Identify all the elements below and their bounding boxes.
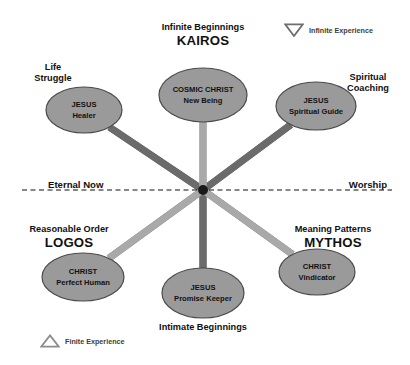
node-jesus-healer-line2: Healer bbox=[72, 111, 95, 120]
pole-bottom: Intimate Beginnings bbox=[133, 322, 273, 333]
label-life-struggle: Life Struggle bbox=[14, 62, 92, 84]
label-spiritual-coaching-line1: Spiritual bbox=[330, 72, 406, 83]
node-christ-human[interactable]: CHRISTPerfect Human bbox=[42, 253, 124, 301]
node-jesus-guide-line1: JESUS bbox=[304, 96, 329, 105]
legend-infinite-experience-label: Infinite Experience bbox=[309, 26, 373, 35]
legend-finite-experience: Finite Experience bbox=[40, 334, 125, 348]
node-jesus-promise-line2: Promise Keeper bbox=[174, 294, 232, 303]
node-jesus-promise-line1: JESUS bbox=[191, 283, 216, 292]
pole-right: Meaning Patterns MYTHOS bbox=[270, 224, 396, 251]
label-life-struggle-line2: Struggle bbox=[14, 73, 92, 84]
label-spiritual-coaching-line2: Coaching bbox=[330, 83, 406, 94]
pole-top: Infinite Beginnings KAIROS bbox=[133, 22, 273, 49]
pole-top-main: KAIROS bbox=[133, 33, 273, 49]
legend-infinite-experience: Infinite Experience bbox=[284, 23, 373, 37]
axis-label-worship: Worship bbox=[272, 179, 387, 190]
node-jesus-guide-line2: Spiritual Guide bbox=[289, 107, 343, 116]
axis-label-eternal-now: Eternal Now bbox=[48, 179, 103, 190]
node-christ-vind-line1: CHRIST bbox=[303, 262, 332, 271]
node-cosmic-christ-line1: COSMIC CHRIST bbox=[173, 85, 234, 94]
label-spiritual-coaching: Spiritual Coaching bbox=[330, 72, 406, 94]
label-life-struggle-line1: Life bbox=[14, 62, 92, 73]
node-cosmic-christ-line2: New Being bbox=[184, 96, 223, 105]
node-cosmic-christ[interactable]: COSMIC CHRISTNew Being bbox=[159, 68, 247, 122]
pole-left-sub: Reasonable Order bbox=[8, 224, 130, 235]
node-christ-vind-line2: Vindicator bbox=[299, 273, 336, 282]
pole-right-main: MYTHOS bbox=[270, 235, 396, 251]
edge-layer bbox=[109, 122, 293, 268]
node-jesus-healer-line1: JESUS bbox=[72, 100, 97, 109]
node-christ-human-line2: Perfect Human bbox=[56, 278, 110, 287]
node-jesus-healer[interactable]: JESUSHealer bbox=[46, 87, 122, 133]
pole-left: Reasonable Order LOGOS bbox=[8, 224, 130, 251]
pole-left-main: LOGOS bbox=[8, 235, 130, 251]
pole-top-sub: Infinite Beginnings bbox=[133, 22, 273, 33]
legend-finite-experience-label: Finite Experience bbox=[65, 337, 125, 346]
node-christ-vind[interactable]: CHRISTVindicator bbox=[279, 249, 355, 295]
node-jesus-promise[interactable]: JESUSPromise Keeper bbox=[162, 268, 244, 318]
pole-bottom-sub: Intimate Beginnings bbox=[133, 322, 273, 333]
node-christ-human-line1: CHRIST bbox=[69, 267, 98, 276]
triangle-down-icon bbox=[284, 23, 304, 37]
triangle-up-icon bbox=[40, 334, 60, 348]
center-hub-dot bbox=[198, 185, 208, 195]
diagram-canvas: COSMIC CHRISTNew BeingJESUSHealerJESUSSp… bbox=[0, 0, 410, 365]
pole-right-sub: Meaning Patterns bbox=[270, 224, 396, 235]
